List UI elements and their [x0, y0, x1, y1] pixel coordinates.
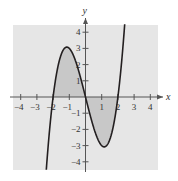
y-tick-label: −4	[71, 157, 81, 167]
x-tick-label: 3	[132, 102, 137, 112]
x-axis-label: x	[165, 91, 171, 102]
y-tick-label: −2	[71, 124, 81, 134]
y-tick-label: 3	[76, 43, 81, 53]
y-tick-label: −3	[71, 141, 81, 151]
cubic-graph: xy−4−3−2−11234−4−3−2−11234	[0, 0, 178, 181]
x-tick-label: −3	[30, 102, 40, 112]
y-axis-arrow-icon	[83, 18, 88, 24]
x-tick-label: −4	[14, 102, 24, 112]
y-tick-label: 4	[76, 27, 81, 37]
x-tick-label: 4	[148, 102, 153, 112]
y-tick-label: −1	[71, 108, 81, 118]
x-axis-arrow-icon	[157, 95, 163, 100]
y-axis-label: y	[82, 5, 88, 16]
chart: xy−4−3−2−11234−4−3−2−11234	[0, 0, 178, 181]
x-tick-label: 1	[99, 102, 104, 112]
